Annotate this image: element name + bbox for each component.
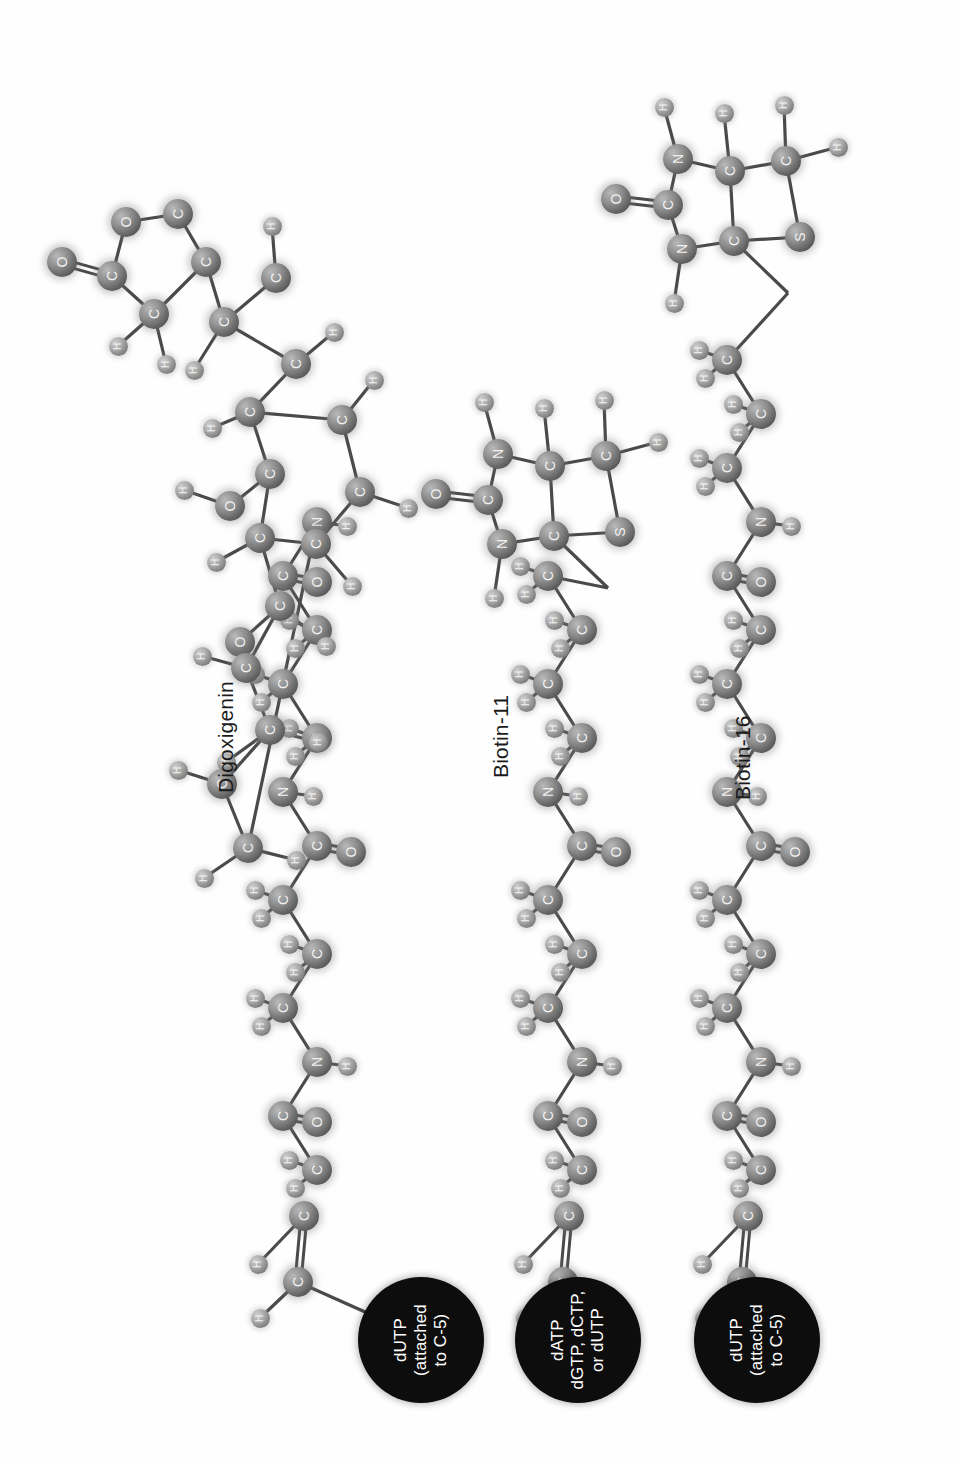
bond-layer: [0, 0, 954, 1462]
atom-symbol: N: [309, 1057, 325, 1067]
atom-h: H: [286, 747, 305, 766]
nucleotide-label-digoxigenin: dUTP (attached to C-5): [391, 1304, 451, 1376]
atom-symbol: H: [312, 738, 323, 745]
atom-symbol: H: [554, 752, 565, 759]
atom-h: H: [724, 611, 743, 630]
atom-c: C: [265, 591, 295, 621]
atom-symbol: C: [480, 495, 496, 505]
atom-c: C: [255, 459, 285, 489]
atom-h: H: [595, 391, 614, 410]
atom-c: C: [715, 156, 745, 186]
atom-h: H: [475, 393, 494, 412]
atom-symbol: H: [266, 222, 277, 229]
atom-n: N: [746, 507, 776, 537]
atom-c: C: [255, 715, 285, 745]
atom-symbol: C: [561, 1211, 577, 1221]
atom-symbol: H: [727, 940, 738, 947]
atom-h: H: [207, 553, 226, 572]
atom-c: C: [533, 993, 563, 1023]
atom-c: C: [567, 831, 597, 861]
atom-symbol: N: [574, 1057, 590, 1067]
atom-h: H: [551, 963, 570, 982]
atom-symbol: C: [238, 663, 254, 673]
atom-symbol: H: [488, 594, 499, 601]
atom-o: O: [47, 247, 77, 277]
atom-symbol: H: [514, 886, 525, 893]
atom-c: C: [261, 263, 291, 293]
atom-c: C: [712, 1101, 742, 1131]
atom-o: O: [215, 491, 245, 521]
atom-symbol: C: [540, 895, 556, 905]
atom-symbol: H: [112, 342, 123, 349]
atom-symbol: C: [288, 359, 304, 369]
atom-h: H: [724, 1151, 743, 1170]
atom-symbol: H: [255, 914, 266, 921]
atom-symbol: H: [554, 644, 565, 651]
atom-symbol: C: [719, 895, 735, 905]
atom-symbol: H: [255, 1022, 266, 1029]
atom-n: N: [483, 439, 513, 469]
atom-symbol: H: [402, 504, 413, 511]
atom-h: H: [551, 639, 570, 658]
atom-h: H: [730, 639, 749, 658]
atom-symbol: H: [196, 652, 207, 659]
atom-symbol: C: [262, 469, 278, 479]
atom-symbol: H: [727, 616, 738, 623]
atom-h: H: [690, 881, 709, 900]
atom-n: N: [487, 529, 517, 559]
atom-h: H: [511, 989, 530, 1008]
atom-o: O: [780, 837, 810, 867]
atom-symbol: O: [222, 501, 238, 512]
atom-c: C: [533, 561, 563, 591]
atom-h: H: [185, 361, 204, 380]
atom-c: C: [653, 190, 683, 220]
atom-h: H: [304, 787, 323, 806]
atom-o: O: [302, 1107, 332, 1137]
atom-c: C: [554, 1201, 584, 1231]
molecule-label-digoxigenin: Digoxigenin: [214, 681, 238, 793]
atom-symbol: C: [275, 679, 291, 689]
atom-h: H: [280, 1151, 299, 1170]
atom-symbol: N: [753, 517, 769, 527]
atom-symbol: H: [554, 968, 565, 975]
atom-symbol: H: [328, 328, 339, 335]
atom-symbol: C: [252, 533, 268, 543]
atom-symbol: C: [753, 1165, 769, 1175]
atom-symbol: S: [792, 232, 808, 241]
atom-h: H: [263, 217, 282, 236]
atom-symbol: C: [272, 601, 288, 611]
atom-symbol: H: [346, 582, 357, 589]
atom-c: C: [268, 669, 298, 699]
atom-symbol: H: [283, 724, 294, 731]
atom-symbol: C: [574, 733, 590, 743]
atom-symbol: H: [368, 376, 379, 383]
figure-canvas: HHOHHHHHHHOHHHHHHHOHCCNCCCCNCCCCNOCOCCCH…: [0, 0, 954, 1462]
atom-c: C: [97, 261, 127, 291]
atom-symbol: H: [699, 698, 710, 705]
atom-symbol: H: [693, 994, 704, 1001]
atom-symbol: H: [718, 109, 729, 116]
atom-o: O: [302, 567, 332, 597]
atom-symbol: C: [719, 463, 735, 473]
atom-c: C: [712, 993, 742, 1023]
atom-symbol: C: [275, 1003, 291, 1013]
atom-symbol: C: [540, 1003, 556, 1013]
nucleotide-circle-digoxigenin: dUTP (attached to C-5): [358, 1277, 484, 1403]
atom-c: C: [567, 723, 597, 753]
atom-h: H: [252, 909, 271, 928]
atom-h: H: [309, 733, 328, 752]
atom-h: H: [246, 881, 265, 900]
atom-c: C: [712, 561, 742, 591]
atom-h: H: [690, 341, 709, 360]
atom-h: H: [517, 585, 536, 604]
atom-symbol: H: [206, 424, 217, 431]
atom-symbol: C: [753, 625, 769, 635]
atom-symbol: N: [490, 449, 506, 459]
atom-h: H: [690, 665, 709, 684]
atom-symbol: C: [146, 309, 162, 319]
atom-symbol: H: [341, 1062, 352, 1069]
atom-symbol: H: [520, 590, 531, 597]
atom-h: H: [665, 294, 684, 313]
atom-symbol: O: [753, 1117, 769, 1128]
atom-symbol: C: [240, 843, 256, 853]
